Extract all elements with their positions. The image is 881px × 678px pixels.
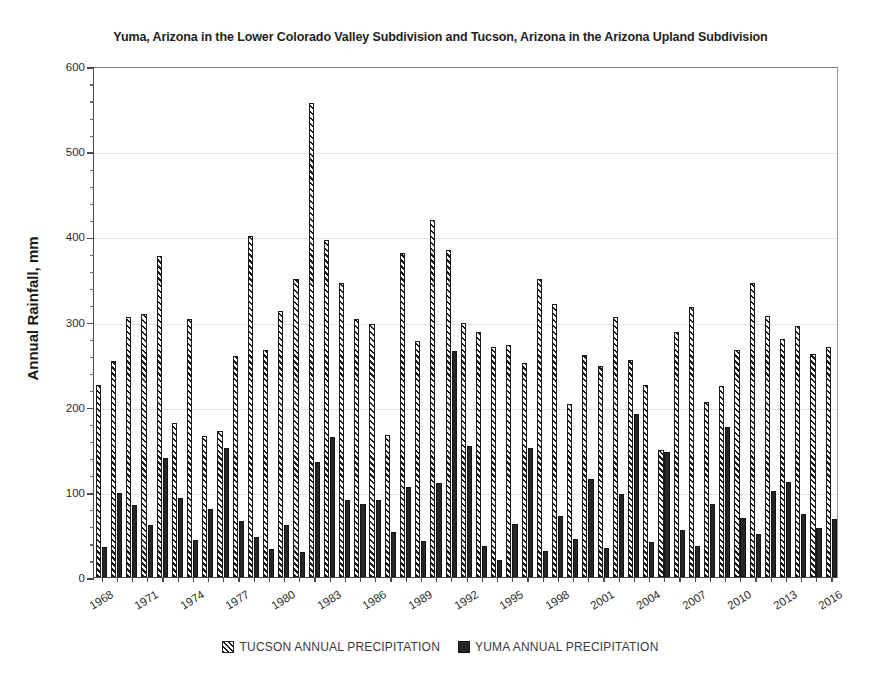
- bar-yuma: [330, 437, 335, 577]
- bar-yuma: [360, 504, 365, 577]
- bar-group: [778, 66, 793, 577]
- bar-group: [109, 66, 124, 577]
- bar-group: [687, 66, 702, 577]
- bar-group: [216, 66, 231, 577]
- bar-yuma: [497, 560, 502, 577]
- bar-group: [657, 66, 672, 577]
- x-axis-tick-label: 2001: [578, 588, 617, 618]
- y-tick-major: [87, 493, 94, 495]
- x-tick: [254, 577, 255, 582]
- x-tick: [314, 577, 315, 582]
- bar-tucson: [354, 319, 359, 577]
- x-tick: [132, 577, 133, 582]
- x-tick: [786, 577, 787, 582]
- bar-group: [717, 66, 732, 577]
- bar-tucson: [233, 356, 238, 577]
- x-tick: [710, 577, 711, 582]
- bar-yuma: [452, 351, 457, 577]
- x-tick: [299, 577, 300, 582]
- x-tick: [178, 577, 179, 582]
- x-tick: [725, 577, 726, 582]
- x-tick: [816, 577, 817, 582]
- bar-group: [413, 66, 428, 577]
- bar-yuma: [482, 546, 487, 578]
- x-tick: [451, 577, 452, 582]
- x-axis-tick-label: 1974: [168, 588, 207, 618]
- x-axis-tick-label: 1998: [532, 588, 571, 618]
- y-tick-major: [87, 238, 94, 240]
- bar-tucson: [446, 250, 451, 577]
- bar-group: [793, 66, 808, 577]
- bar-group: [550, 66, 565, 577]
- bar-group: [276, 66, 291, 577]
- bar-group: [565, 66, 580, 577]
- x-axis-tick-label: 1968: [76, 588, 115, 618]
- chart-figure: Yuma, Arizona in the Lower Colorado Vall…: [0, 0, 881, 678]
- bar-yuma: [801, 514, 806, 577]
- bar-yuma: [254, 537, 259, 577]
- legend-swatch-yuma-icon: [458, 641, 470, 653]
- x-axis-tick-label: 1971: [122, 588, 161, 618]
- y-axis-tick-label: 500: [35, 146, 85, 158]
- bar-tucson: [628, 360, 633, 577]
- y-tick-major: [87, 323, 94, 325]
- bar-group: [170, 66, 185, 577]
- bar-group: [611, 66, 626, 577]
- x-tick: [649, 577, 650, 582]
- bar-yuma: [345, 500, 350, 577]
- bar-tucson: [826, 347, 831, 577]
- plot-area: [93, 67, 838, 578]
- x-tick: [512, 577, 513, 582]
- legend-item-tucson: TUCSON ANNUAL PRECIPITATION: [222, 640, 440, 654]
- bar-group: [261, 66, 276, 577]
- bar-yuma: [710, 504, 715, 577]
- bar-yuma: [224, 448, 229, 577]
- bar-yuma: [132, 505, 137, 577]
- x-tick: [771, 577, 772, 582]
- bar-yuma: [771, 491, 776, 577]
- x-axis-tick-label: 1977: [213, 588, 252, 618]
- bar-tucson: [263, 350, 268, 577]
- bar-yuma: [421, 541, 426, 577]
- x-tick: [755, 577, 756, 582]
- x-tick: [269, 577, 270, 582]
- bar-tucson: [141, 314, 146, 577]
- bar-tucson: [780, 339, 785, 577]
- bar-group: [200, 66, 215, 577]
- bar-group: [505, 66, 520, 577]
- x-axis-tick-label: 2007: [669, 588, 708, 618]
- bar-yuma: [300, 552, 305, 577]
- bar-yuma: [573, 539, 578, 577]
- bar-tucson: [582, 355, 587, 577]
- bar-tucson: [400, 253, 405, 577]
- x-tick: [375, 577, 376, 582]
- x-tick: [543, 577, 544, 582]
- x-axis-tick-label: 1986: [350, 588, 389, 618]
- x-tick: [740, 577, 741, 582]
- bar-yuma: [512, 524, 517, 577]
- y-axis-tick-label: 300: [35, 317, 85, 329]
- bar-tucson: [658, 450, 663, 577]
- x-tick: [558, 577, 559, 582]
- bar-group: [459, 66, 474, 577]
- bar-yuma: [208, 509, 213, 577]
- bar-tucson: [689, 307, 694, 577]
- x-axis-tick-label: 1989: [396, 588, 435, 618]
- bar-group: [581, 66, 596, 577]
- bar-group: [474, 66, 489, 577]
- bar-tucson: [126, 317, 131, 577]
- bar-group: [748, 66, 763, 577]
- x-tick: [193, 577, 194, 582]
- bar-yuma: [163, 458, 168, 577]
- bar-group: [246, 66, 261, 577]
- x-axis-tick-label: 2010: [715, 588, 754, 618]
- x-tick: [831, 577, 832, 582]
- bar-tucson: [430, 220, 435, 577]
- bar-group: [231, 66, 246, 577]
- bar-yuma: [604, 548, 609, 577]
- bar-tucson: [734, 350, 739, 577]
- bar-yuma: [284, 525, 289, 577]
- bar-tucson: [613, 317, 618, 577]
- bar-tucson: [476, 332, 481, 577]
- bar-yuma: [436, 483, 441, 577]
